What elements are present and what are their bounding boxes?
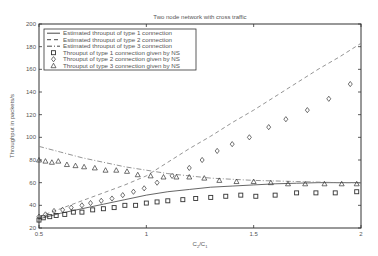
y-tick-label: 40 bbox=[29, 202, 36, 208]
y-tick-label: 140 bbox=[26, 89, 37, 95]
series-6 bbox=[37, 158, 360, 186]
series-1 bbox=[39, 183, 361, 219]
series-5 bbox=[37, 81, 352, 219]
series-3 bbox=[39, 146, 361, 182]
legend-item: Throuput of type 3 connection given by N… bbox=[51, 62, 180, 69]
legend: Estimated throuput of type 1 connectionE… bbox=[44, 29, 196, 70]
chart-title: Two node network with cross traffic bbox=[153, 14, 246, 20]
series-4 bbox=[37, 190, 359, 222]
legend-label: Throuput of type 3 connection given by N… bbox=[63, 62, 180, 69]
chart-figure: Two node network with cross traffic 2040… bbox=[0, 0, 378, 256]
y-tick-label: 120 bbox=[26, 112, 37, 118]
y-tick-label: 160 bbox=[26, 66, 37, 72]
y-tick-label: 200 bbox=[26, 21, 37, 27]
y-tick-label: 60 bbox=[29, 180, 36, 186]
y-axis-label: Throughput in packets/s bbox=[9, 94, 15, 158]
x-tick-label: 0.5 bbox=[35, 231, 44, 237]
x-tick-label: 1 bbox=[145, 231, 149, 237]
x-axis-label: C2/C1 bbox=[193, 241, 209, 249]
y-tick-label: 100 bbox=[26, 134, 37, 140]
x-tick-label: 1.5 bbox=[249, 231, 258, 237]
y-tick-label: 180 bbox=[26, 44, 37, 50]
y-tick-label: 80 bbox=[29, 157, 36, 163]
x-tick-label: 2 bbox=[359, 231, 363, 237]
